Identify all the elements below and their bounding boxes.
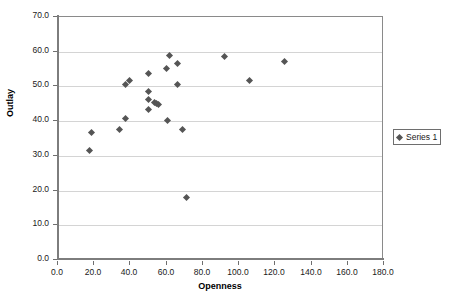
data-point bbox=[179, 126, 186, 133]
gridline bbox=[58, 86, 382, 87]
x-axis-tick-label: 120.0 bbox=[254, 268, 294, 277]
gridline bbox=[58, 52, 382, 53]
y-axis-tick-label: 0.0 bbox=[0, 254, 49, 263]
data-point bbox=[183, 194, 190, 201]
x-axis-tick-mark bbox=[311, 261, 312, 265]
x-axis-tick-mark bbox=[129, 261, 130, 265]
x-axis-tick-mark bbox=[93, 261, 94, 265]
x-axis-tick-label: 160.0 bbox=[327, 268, 367, 277]
data-point bbox=[145, 88, 152, 95]
y-axis-tick-label: 20.0 bbox=[0, 185, 49, 194]
x-axis-tick-label: 180.0 bbox=[363, 268, 403, 277]
data-point bbox=[166, 52, 173, 59]
gridline bbox=[58, 121, 382, 122]
x-axis-tick-mark bbox=[274, 261, 275, 265]
data-point bbox=[174, 60, 181, 67]
x-axis-tick-mark bbox=[166, 261, 167, 265]
data-point bbox=[88, 129, 95, 136]
y-axis-tick-mark bbox=[53, 155, 57, 156]
y-axis-tick-mark bbox=[53, 224, 57, 225]
x-axis-tick-mark bbox=[347, 261, 348, 265]
y-axis-tick-mark bbox=[53, 120, 57, 121]
x-axis-tick-label: 100.0 bbox=[218, 268, 258, 277]
data-point bbox=[163, 65, 170, 72]
x-axis-tick-mark bbox=[57, 261, 58, 265]
legend[interactable]: Series 1 bbox=[393, 129, 441, 145]
y-axis-tick-label: 10.0 bbox=[0, 219, 49, 228]
y-axis-tick-label: 50.0 bbox=[0, 80, 49, 89]
data-point bbox=[163, 117, 170, 124]
data-point bbox=[145, 106, 152, 113]
data-point bbox=[221, 53, 228, 60]
x-axis-tick-label: 140.0 bbox=[291, 268, 331, 277]
y-axis-title: Outlay bbox=[5, 101, 15, 117]
x-axis-tick-mark bbox=[383, 261, 384, 265]
y-axis-tick-label: 70.0 bbox=[0, 11, 49, 20]
x-axis-line bbox=[57, 258, 384, 260]
data-point bbox=[246, 77, 253, 84]
scatter-chart: 0.010.020.030.040.050.060.070.0 0.020.04… bbox=[0, 0, 452, 301]
y-axis-tick-mark bbox=[53, 259, 57, 260]
y-axis-line bbox=[57, 15, 59, 260]
y-axis-tick-mark bbox=[53, 51, 57, 52]
plot-area bbox=[57, 16, 383, 259]
x-axis-tick-label: 80.0 bbox=[182, 268, 222, 277]
y-axis-tick-mark bbox=[53, 190, 57, 191]
x-axis-tick-mark bbox=[202, 261, 203, 265]
legend-marker-icon bbox=[396, 133, 403, 140]
gridline bbox=[58, 156, 382, 157]
x-axis-title: Openness bbox=[57, 281, 383, 291]
data-point bbox=[281, 58, 288, 65]
data-point bbox=[86, 147, 93, 154]
x-axis-tick-label: 40.0 bbox=[109, 268, 149, 277]
data-point bbox=[145, 70, 152, 77]
y-axis-tick-mark bbox=[53, 16, 57, 17]
x-axis-tick-label: 20.0 bbox=[73, 268, 113, 277]
x-axis-tick-mark bbox=[238, 261, 239, 265]
gridline bbox=[58, 191, 382, 192]
data-point bbox=[116, 126, 123, 133]
legend-item-label: Series 1 bbox=[406, 132, 437, 142]
y-axis-tick-label: 60.0 bbox=[0, 46, 49, 55]
x-axis-tick-label: 60.0 bbox=[146, 268, 186, 277]
x-axis-tick-label: 0.0 bbox=[37, 268, 77, 277]
gridline bbox=[58, 225, 382, 226]
y-axis-tick-mark bbox=[53, 85, 57, 86]
y-axis-tick-label: 30.0 bbox=[0, 150, 49, 159]
